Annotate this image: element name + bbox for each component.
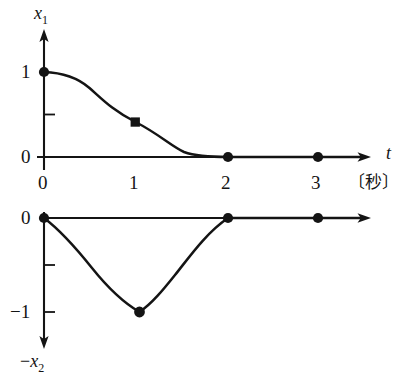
lower-y-axis-title-minus: − xyxy=(20,351,30,371)
lower-y-axis-title-subscript: 2 xyxy=(38,361,44,375)
time-axis-label: t xyxy=(386,144,391,162)
lower-marker-t3 xyxy=(313,213,323,223)
lower-marker-t2 xyxy=(223,213,233,223)
figure-root: x1 1 0 t 0 1 2 3 〔秒〕 0 −1 −x2 xyxy=(0,0,418,380)
upper-marker-t1 xyxy=(131,117,140,126)
lower-marker-t1 xyxy=(134,307,145,318)
x-tick-label-0: 0 xyxy=(38,173,48,192)
x-tick-label-3: 3 xyxy=(311,173,321,192)
x-tick-label-2: 2 xyxy=(221,173,231,192)
upper-marker-t0 xyxy=(39,67,49,77)
lower-y-label-zero: 0 xyxy=(21,208,31,227)
lower-marker-t0 xyxy=(39,213,49,223)
upper-y-axis-title-var: x xyxy=(34,3,42,23)
upper-y-label-one: 1 xyxy=(21,62,31,81)
upper-marker-t3 xyxy=(313,152,323,162)
time-unit-label: 〔秒〕 xyxy=(348,174,399,191)
lower-y-axis-title: −x2 xyxy=(20,352,44,374)
upper-y-axis-title-subscript: 1 xyxy=(42,13,48,27)
upper-marker-t2 xyxy=(223,152,233,162)
lower-y-axis-title-var: x xyxy=(30,351,38,371)
upper-y-label-zero: 0 xyxy=(21,147,31,166)
x-tick-label-1: 1 xyxy=(129,173,139,192)
lower-y-label-minus-one: −1 xyxy=(10,302,30,321)
upper-y-axis-title: x1 xyxy=(34,4,48,26)
